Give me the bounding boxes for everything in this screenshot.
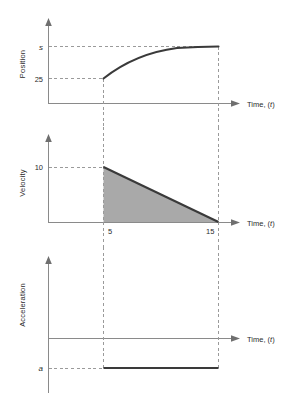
motion-graphs-figure: Position s 25 Time, (t) Velocity 10 5 15… <box>0 0 299 405</box>
acceleration-y-axis-arrowhead <box>45 256 52 264</box>
position-x-axis-label-close: ) <box>272 100 275 109</box>
velocity-panel: Velocity 10 5 15 Time, (t) <box>18 127 275 247</box>
acceleration-x-axis-label-close: ) <box>272 335 275 344</box>
acceleration-ytick-a: a <box>39 364 44 373</box>
acceleration-x-axis-label-main: Time, ( <box>247 335 271 344</box>
acceleration-x-axis-label: Time, (t) <box>247 335 275 344</box>
acceleration-x-axis-arrowhead <box>231 335 240 342</box>
velocity-ytick-10: 10 <box>35 163 43 172</box>
position-y-axis-arrowhead <box>45 18 52 26</box>
position-x-axis-arrowhead <box>231 100 240 107</box>
velocity-y-axis-arrowhead <box>45 134 52 142</box>
position-panel: Position s 25 Time, (t) <box>18 18 275 127</box>
position-x-axis-label-main: Time, ( <box>247 100 271 109</box>
velocity-xtick-15: 15 <box>206 227 214 236</box>
position-curve <box>104 47 219 79</box>
velocity-x-axis-label: Time, (t) <box>247 219 275 228</box>
velocity-xtick-5: 5 <box>108 227 112 236</box>
velocity-x-axis-label-main: Time, ( <box>247 219 271 228</box>
position-ytick-s: s <box>39 43 43 52</box>
velocity-y-axis-label: Velocity <box>18 169 27 196</box>
position-x-axis-label: Time, (t) <box>247 100 275 109</box>
acceleration-y-axis-label: Acceleration <box>18 283 27 327</box>
acceleration-panel: Acceleration a Time, (t) <box>18 247 275 393</box>
position-ytick-25: 25 <box>35 75 43 84</box>
velocity-x-axis-label-close: ) <box>272 219 275 228</box>
position-y-axis-label: Position <box>18 50 27 78</box>
velocity-x-axis-arrowhead <box>231 219 240 226</box>
